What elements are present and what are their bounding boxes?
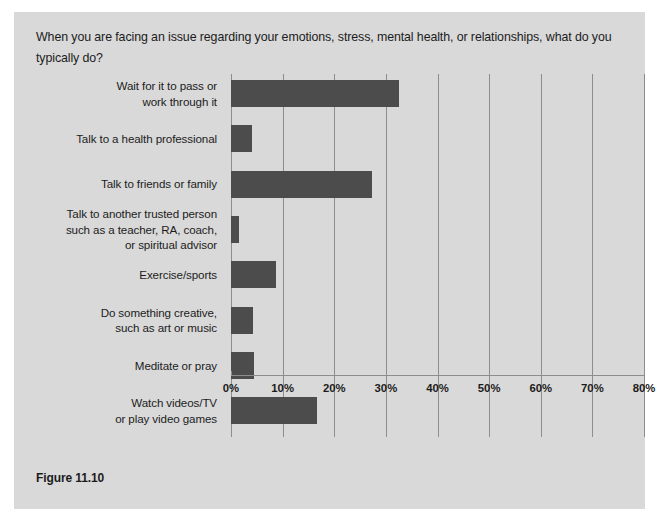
x-tick-label: 10% [263,382,303,394]
category-label-line: or play video games [17,411,217,427]
x-tick-label: 80% [624,382,659,394]
category-label: Watch videos/TVor play video games [17,395,217,426]
category-label: Wait for it to pass orwork through it [17,78,217,109]
x-tick-label: 40% [418,382,458,394]
category-label-line: Talk to friends or family [17,176,217,192]
category-label-line: Meditate or pray [17,358,217,374]
x-tick-mark [644,371,645,376]
x-tick-mark [231,371,232,376]
category-label: Talk to friends or family [17,176,217,192]
x-tick-label: 50% [469,382,509,394]
x-tick-mark [386,371,387,376]
x-tick-label: 30% [366,382,406,394]
category-label-line: Do something creative, [17,305,217,321]
bar [231,307,253,334]
category-label-line: Wait for it to pass or [17,78,217,94]
category-label: Do something creative,such as art or mus… [17,305,217,336]
category-label-line: work through it [17,94,217,110]
x-tick-mark [283,371,284,376]
chart-question-title: When you are facing an issue regarding y… [36,27,626,69]
category-label: Talk to another trusted personsuch as a … [17,206,217,253]
bar [231,261,276,288]
x-axis: 0%10%20%30%40%50%60%70%80% [217,375,645,409]
category-label-line: or spiritual advisor [17,237,217,253]
category-label: Talk to a health professional [17,131,217,147]
x-tick-mark [541,371,542,376]
category-label-line: Exercise/sports [17,267,217,283]
category-label: Exercise/sports [17,267,217,283]
x-tick-mark [489,371,490,376]
figure-panel: When you are facing an issue regarding y… [14,12,645,509]
bar [231,80,399,107]
category-label-line: Watch videos/TV [17,395,217,411]
category-label-line: such as art or music [17,320,217,336]
x-tick-mark [438,371,439,376]
x-tick-label: 0% [211,382,251,394]
figure-caption: Figure 11.10 [36,471,104,485]
bar [231,125,252,152]
category-label-line: such as a teacher, RA, coach, [17,222,217,238]
category-label-line: Talk to a health professional [17,131,217,147]
category-label: Meditate or pray [17,358,217,374]
category-label-line: Talk to another trusted person [17,206,217,222]
bar [231,216,239,243]
x-tick-label: 70% [572,382,612,394]
bar [231,171,372,198]
category-axis-labels: Wait for it to pass orwork through itTal… [14,74,217,437]
x-tick-mark [592,371,593,376]
x-tick-label: 60% [521,382,561,394]
x-tick-label: 20% [314,382,354,394]
x-tick-mark [334,371,335,376]
